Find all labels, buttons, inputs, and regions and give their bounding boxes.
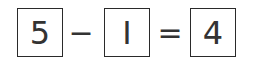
operand1-value: 5 — [30, 17, 50, 49]
operand1-box: 5 — [17, 8, 63, 57]
result-value: 4 — [203, 17, 223, 49]
operand2-box: I — [104, 8, 150, 57]
result-box: 4 — [190, 8, 236, 57]
operand2-value: I — [122, 17, 131, 49]
minus-sign: − — [66, 8, 96, 58]
equals-sign: = — [155, 8, 185, 58]
